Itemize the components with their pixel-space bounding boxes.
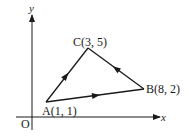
y-axis-label: y xyxy=(28,2,34,14)
point-c-label: C(3, 5) xyxy=(73,35,107,49)
origin-label: O xyxy=(21,117,30,131)
point-a-label: A(1, 1) xyxy=(42,104,77,118)
coordinate-diagram: x y O A(1, 1) B(8, 2) C(3, 5) xyxy=(0,0,189,139)
x-axis-label: x xyxy=(160,111,166,123)
point-b-label: B(8, 2) xyxy=(146,82,180,96)
